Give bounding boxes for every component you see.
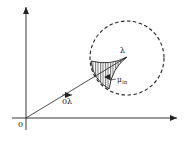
mu-in-label: μin <box>117 75 128 85</box>
vector-diagram: 0λ 0 λ μin <box>0 0 187 142</box>
origin-label: 0 <box>18 120 23 129</box>
vector-label: 0λ <box>62 97 72 106</box>
mu-in-leader <box>110 79 116 80</box>
lambda-label: λ <box>120 46 125 55</box>
vector-0-lambda <box>26 58 126 119</box>
